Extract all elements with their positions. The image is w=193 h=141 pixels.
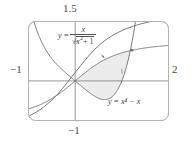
graph-figure: 1.5 −1 2 −1 y =x√x2+ 1 y = x⁴ − x [0,0,193,141]
y-max-label: 1.5 [63,3,77,14]
y-min-label: −1 [68,125,80,136]
curve1-denominator: √x2+ 1 [70,35,96,46]
curve1-denominator-tail: + 1 [83,37,94,46]
curve-label-rational: y =x√x2+ 1 [58,26,97,46]
curve1-numerator: x [70,26,96,35]
curve1-lhs: y = [58,32,69,40]
x-min-label: −1 [10,64,22,75]
curve1-radicand-group: x2+ 1 [76,36,94,46]
curve-label-quartic: y = x⁴ − x [108,98,140,106]
x-max-label: 2 [172,64,178,75]
plot-area [0,0,193,141]
curve1-fraction: x√x2+ 1 [70,26,96,46]
intersection-point-dot [131,49,134,52]
